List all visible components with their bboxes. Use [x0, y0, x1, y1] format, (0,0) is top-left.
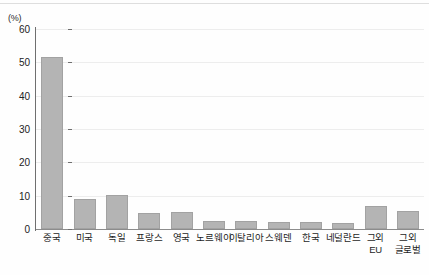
bar [138, 213, 160, 229]
bar [74, 199, 96, 229]
bar-chart-figure: (%) 0102030405060 중국미국독일프랑스영국노르웨이이탈리아스웨덴… [0, 0, 429, 275]
y-axis-unit-label: (%) [8, 13, 21, 23]
y-axis-tick-mark [68, 229, 72, 230]
bar [106, 195, 128, 229]
bar [300, 222, 322, 229]
y-axis-tick-label: 40 [0, 90, 30, 101]
bar [235, 221, 257, 229]
bar [365, 206, 387, 229]
y-axis-tick-label: 50 [0, 57, 30, 68]
x-axis-baseline [36, 229, 424, 230]
bar [397, 211, 419, 229]
bar [203, 221, 225, 229]
y-axis-tick-label: 10 [0, 190, 30, 201]
plot-area: 0102030405060 [36, 29, 424, 229]
bar [41, 57, 63, 229]
x-axis-labels: 중국미국독일프랑스영국노르웨이이탈리아스웨덴한국네덜란드그외 EU그외 글로벌 [36, 232, 424, 274]
bar-series [36, 29, 424, 229]
bar [332, 223, 354, 229]
bar [171, 212, 193, 229]
bar [268, 222, 290, 229]
scan-artifact-rule [0, 3, 429, 4]
y-axis-tick-label: 0 [0, 224, 30, 235]
y-axis-tick-label: 60 [0, 24, 30, 35]
y-axis-tick-label: 20 [0, 157, 30, 168]
y-axis-tick-label: 30 [0, 124, 30, 135]
x-axis-category-label: 그외 글로벌 [389, 232, 427, 256]
